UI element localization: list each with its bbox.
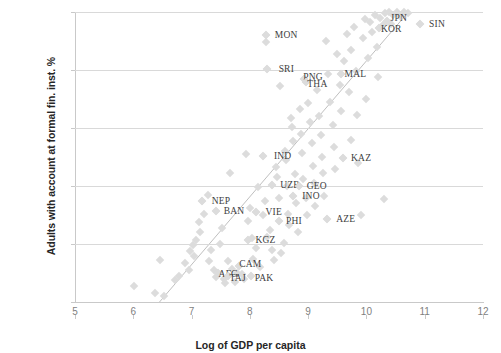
- x-tick-label: 5: [72, 306, 78, 317]
- plot-area: MONSRIPNGTHAMALKORJPNSININDKAZUZBGEOINON…: [75, 12, 483, 302]
- data-point: [297, 130, 305, 138]
- data-point: [314, 112, 322, 120]
- data-point: [293, 228, 301, 236]
- gridline: [75, 186, 483, 187]
- y-tick-mark: [71, 186, 75, 187]
- data-point: [353, 111, 361, 119]
- data-point-labeled: [258, 151, 266, 159]
- data-point: [362, 95, 370, 103]
- data-point: [363, 54, 371, 62]
- data-point: [303, 211, 311, 219]
- point-label-ind: IND: [274, 151, 292, 161]
- y-tick-mark: [71, 12, 75, 13]
- y-tick-mark: [71, 70, 75, 71]
- data-point: [288, 122, 296, 130]
- data-point: [207, 246, 215, 254]
- point-label-taj: TAJ: [230, 273, 246, 283]
- data-point: [200, 209, 208, 217]
- y-tick-mark: [71, 128, 75, 129]
- y-tick-mark: [71, 302, 75, 303]
- data-point: [320, 192, 328, 200]
- data-point: [374, 73, 382, 81]
- data-point: [356, 211, 364, 219]
- data-point-labeled: [262, 31, 270, 39]
- data-point-labeled: [268, 180, 276, 188]
- point-label-nep: NEP: [212, 196, 231, 206]
- y-tick-mark: [71, 244, 75, 245]
- data-point: [262, 38, 270, 46]
- point-label-tha: THA: [307, 79, 327, 89]
- data-point: [270, 256, 278, 264]
- x-tick-label: 10: [361, 306, 372, 317]
- data-point-labeled: [263, 64, 271, 72]
- gridline: [75, 12, 483, 13]
- data-point: [130, 282, 138, 290]
- data-point: [309, 161, 317, 169]
- data-point: [276, 82, 284, 90]
- point-label-aze: AZE: [336, 214, 355, 224]
- x-tick-label: 12: [477, 306, 488, 317]
- x-tick-label: 7: [189, 306, 195, 317]
- data-point-labeled: [275, 217, 283, 225]
- data-point: [359, 34, 367, 42]
- point-label-kgz: KGZ: [255, 235, 275, 245]
- point-label-mon: MON: [275, 30, 298, 40]
- data-point-labeled: [198, 196, 206, 204]
- data-point-labeled: [212, 206, 220, 214]
- data-point: [221, 279, 229, 287]
- point-label-cam: CAM: [239, 259, 261, 269]
- x-tick-label: 11: [420, 306, 430, 317]
- data-point: [304, 99, 312, 107]
- data-point: [268, 246, 276, 254]
- data-point: [195, 228, 203, 236]
- data-point: [289, 137, 297, 145]
- data-point: [330, 143, 338, 151]
- data-point-labeled: [339, 154, 347, 162]
- data-point: [342, 30, 350, 38]
- data-point: [347, 135, 355, 143]
- data-point: [292, 199, 300, 207]
- data-point: [205, 257, 213, 265]
- data-point: [307, 138, 315, 146]
- data-point: [333, 50, 341, 58]
- data-point: [335, 80, 343, 88]
- data-point: [345, 88, 353, 96]
- gridline: [75, 128, 483, 129]
- data-point: [366, 18, 374, 26]
- data-point: [331, 164, 339, 172]
- data-point: [184, 266, 192, 274]
- point-label-kor: KOR: [381, 24, 402, 34]
- x-tick-label: 8: [247, 306, 253, 317]
- data-point: [319, 169, 327, 177]
- point-label-sri: SRI: [279, 64, 294, 74]
- data-point: [261, 196, 269, 204]
- data-point: [326, 98, 334, 106]
- x-axis-title: Log of GDP per capita: [0, 339, 501, 351]
- data-point: [296, 105, 304, 113]
- data-point-labeled: [416, 19, 424, 27]
- data-point: [286, 114, 294, 122]
- data-point: [347, 45, 355, 53]
- data-point: [226, 169, 234, 177]
- data-point: [190, 251, 198, 259]
- data-point: [306, 118, 314, 126]
- point-label-pak: PAK: [255, 273, 274, 283]
- data-point: [251, 244, 259, 252]
- data-point: [311, 202, 319, 210]
- x-axis-line: [75, 302, 484, 303]
- data-point: [242, 150, 250, 158]
- scatter-chart: Adults with account at formal fin. inst.…: [0, 0, 501, 353]
- point-label-kaz: KAZ: [351, 153, 371, 163]
- point-label-sin: SIN: [429, 19, 445, 29]
- y-axis-title: Adults with account at formal fin. inst.…: [45, 41, 57, 271]
- data-point: [271, 163, 279, 171]
- data-point: [349, 22, 357, 30]
- x-tick-label: 6: [131, 306, 137, 317]
- point-label-geo: GEO: [307, 181, 327, 191]
- data-point: [215, 240, 223, 248]
- data-point: [298, 148, 306, 156]
- data-point: [243, 217, 251, 225]
- point-label-ban: BAN: [224, 206, 245, 216]
- data-point: [321, 37, 329, 45]
- data-point: [155, 256, 163, 264]
